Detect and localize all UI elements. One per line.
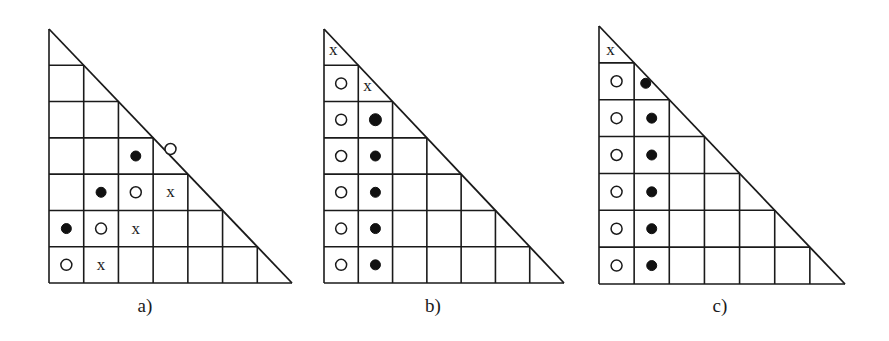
filled-circle-icon [96, 187, 106, 197]
open-circle-icon [336, 259, 347, 270]
x-mark-icon: x [166, 182, 175, 201]
x-mark-icon: x [132, 219, 141, 238]
panel-a-triangle-grid: xxx [49, 29, 292, 283]
filled-circle-icon [131, 151, 141, 161]
panel-b-label: b) [425, 295, 441, 317]
open-circle-icon [611, 186, 622, 197]
open-circle-icon [336, 187, 347, 198]
filled-circle-icon [370, 187, 380, 197]
filled-circle-icon [647, 150, 657, 160]
filled-circle-icon [647, 224, 657, 234]
filled-circle-icon [370, 151, 380, 161]
open-circle-icon [336, 114, 347, 125]
open-circle-icon [165, 144, 176, 155]
open-circle-icon [61, 259, 72, 270]
panel-c-triangle-grid: x [599, 26, 845, 284]
open-circle-icon [336, 78, 347, 89]
open-circle-icon [611, 150, 622, 161]
filled-circle-icon [647, 261, 657, 271]
filled-circle-icon [647, 113, 657, 123]
filled-circle-icon [641, 78, 651, 88]
filled-circle-icon [61, 224, 71, 234]
open-circle-icon [336, 151, 347, 162]
x-mark-icon: x [606, 40, 615, 59]
open-circle-icon [336, 223, 347, 234]
filled-circle-icon [370, 260, 380, 270]
panel-a-label: a) [138, 295, 153, 317]
open-circle-icon [130, 187, 141, 198]
open-circle-icon [611, 76, 622, 87]
open-circle-icon [96, 223, 107, 234]
panel-b-triangle-grid: xx [324, 29, 564, 283]
open-circle-icon [611, 223, 622, 234]
filled-circle-icon [647, 187, 657, 197]
hypotenuse [49, 29, 292, 283]
triangular-grid-figure: xxx xx x a) b) c) [0, 0, 889, 341]
hypotenuse [599, 26, 845, 284]
open-circle-icon [611, 113, 622, 124]
x-mark-icon: x [363, 76, 372, 95]
filled-circle-icon [370, 224, 380, 234]
open-circle-icon [611, 260, 622, 271]
hypotenuse [324, 29, 564, 283]
x-mark-icon: x [329, 40, 338, 59]
panel-c-label: c) [713, 295, 728, 317]
filled-circle-icon [369, 114, 381, 126]
x-mark-icon: x [97, 255, 106, 274]
